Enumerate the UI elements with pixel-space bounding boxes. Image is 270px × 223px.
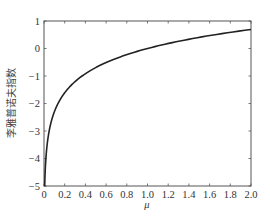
figure: 00.20.40.60.81.01.21.41.61.82.010−1−2−3−… xyxy=(0,0,270,223)
y-tick-label: −1 xyxy=(29,71,40,82)
lyapunov-curve xyxy=(45,29,251,186)
figure-caption-cropped xyxy=(32,216,232,223)
tick-labels: 00.20.40.60.81.01.21.41.61.82.010−1−2−3−… xyxy=(29,16,258,201)
y-tick-label: −2 xyxy=(29,98,40,109)
x-tick-label: 1.6 xyxy=(203,189,216,200)
lyapunov-chart: 00.20.40.60.81.01.21.41.61.82.010−1−2−3−… xyxy=(0,0,270,223)
x-tick-label: 2.0 xyxy=(244,189,257,200)
x-tick-label: 1.2 xyxy=(162,189,175,200)
x-tick-label: 0.6 xyxy=(100,189,113,200)
y-axis-label: 李雅普诺夫指数 xyxy=(5,68,17,138)
x-tick-label: 0.2 xyxy=(58,189,71,200)
plot-frame xyxy=(44,21,251,186)
x-tick-label: 0.8 xyxy=(120,189,133,200)
x-tick-label: 1.4 xyxy=(182,189,196,200)
y-tick-label: 1 xyxy=(35,16,40,27)
curve-layer xyxy=(45,29,251,186)
plot-axes xyxy=(44,21,251,186)
x-tick-label: 0.4 xyxy=(79,189,93,200)
y-tick-label: −5 xyxy=(29,181,40,192)
x-tick-label: 0 xyxy=(41,189,46,200)
y-tick-label: −3 xyxy=(29,126,40,137)
x-tick-label: 1.8 xyxy=(224,189,237,200)
y-tick-label: 0 xyxy=(35,43,40,54)
x-axis-label: μ xyxy=(143,199,149,210)
y-tick-label: −4 xyxy=(29,153,41,164)
